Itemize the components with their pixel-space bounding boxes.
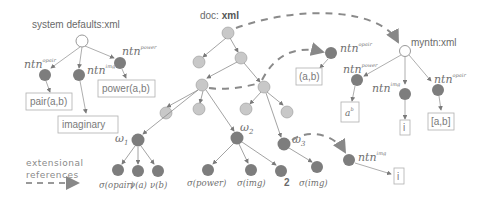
ntn-img-node bbox=[73, 69, 85, 81]
ntn-power-label: ntnpower bbox=[122, 44, 157, 58]
edge bbox=[203, 38, 226, 57]
doc-node bbox=[281, 106, 293, 118]
leaf-node bbox=[311, 161, 323, 173]
leaf-label-nu-b: ν(b) bbox=[150, 180, 167, 190]
edge bbox=[167, 90, 198, 107]
edge bbox=[80, 81, 86, 113]
ab-paren-box-text: (a,b) bbox=[299, 71, 320, 82]
system-defaults-root-node bbox=[76, 35, 88, 47]
edge bbox=[250, 92, 261, 104]
edge bbox=[122, 69, 126, 78]
pair-box-text: pair(a,b) bbox=[30, 96, 67, 107]
leaf-node bbox=[245, 164, 257, 176]
ntn-power-node bbox=[114, 57, 126, 69]
doc-node bbox=[240, 103, 252, 115]
leaf-node bbox=[132, 165, 144, 177]
legend-line2: references bbox=[26, 170, 79, 180]
edge bbox=[266, 93, 281, 137]
ntn-reference-diagram: system defaults:xml ntnopair ntnimg ntnp… bbox=[0, 0, 489, 200]
my-ntn-opair-label: ntnopair bbox=[434, 72, 466, 86]
edge bbox=[213, 143, 234, 164]
ext-ntn-img-node bbox=[343, 154, 355, 166]
edge bbox=[352, 86, 355, 101]
leaf-node bbox=[152, 165, 164, 177]
doc-ntn-opair-node bbox=[325, 47, 337, 59]
leaf-label-sigma-power: σ(power) bbox=[187, 178, 226, 188]
ntn-img-label: ntnimg bbox=[87, 63, 115, 77]
ext-ntn-img-label: ntnimg bbox=[358, 150, 386, 164]
omega3-node bbox=[278, 138, 291, 151]
omega1-label: ω1 bbox=[115, 132, 128, 147]
leaf-node bbox=[275, 165, 287, 177]
edge bbox=[206, 90, 234, 131]
leaf-label-two: 2 bbox=[284, 177, 290, 188]
leaf-label-sigma-img-2: σ(img) bbox=[299, 178, 328, 188]
edge bbox=[244, 63, 260, 82]
omega2-label: ω2 bbox=[240, 121, 254, 136]
edge bbox=[289, 148, 312, 162]
doc-node bbox=[258, 81, 270, 93]
doc-node bbox=[196, 79, 208, 91]
doc-node bbox=[193, 103, 205, 115]
edge bbox=[122, 146, 135, 164]
doc-node bbox=[193, 56, 205, 68]
leaf-label-sigma-opair: σ(opair) bbox=[99, 180, 134, 190]
my-ntn-power-label: ntnpower bbox=[343, 62, 378, 76]
my-ntn-img-label: ntnimg bbox=[372, 81, 400, 95]
leaf-node bbox=[202, 164, 214, 176]
edge bbox=[409, 55, 431, 81]
i-box-myntn-text: i bbox=[403, 122, 405, 133]
ntn-opair-label: ntnopair bbox=[24, 57, 56, 71]
edge bbox=[320, 59, 328, 68]
ab-bracket-box-text: [a,b] bbox=[431, 116, 451, 127]
i-box-ext-text: i bbox=[397, 171, 399, 182]
edge bbox=[85, 46, 114, 58]
myntn-root-node bbox=[400, 46, 411, 57]
dashed-ref-internal bbox=[209, 84, 256, 89]
system-defaults-title: system defaults:xml bbox=[32, 19, 120, 30]
leaf-label-sigma-img-1: σ(img) bbox=[237, 178, 266, 188]
edge bbox=[79, 47, 82, 68]
omega1-node bbox=[132, 134, 145, 147]
myntn-title: myntn:xml bbox=[411, 37, 457, 48]
leaf-node bbox=[112, 164, 124, 176]
edge bbox=[46, 81, 50, 92]
leaf-label-nu-a: ν(a) bbox=[130, 180, 147, 190]
my-ntn-img-node bbox=[399, 88, 411, 100]
power-box-text: power(a,b) bbox=[102, 83, 150, 94]
edge bbox=[141, 146, 154, 164]
dashed-ref-doc-to-myntn bbox=[236, 13, 398, 42]
edge bbox=[207, 62, 237, 78]
imaginary-box-text: imaginary bbox=[62, 119, 105, 130]
edge bbox=[355, 163, 391, 174]
legend-line1: extensional bbox=[26, 158, 83, 168]
edge bbox=[200, 91, 203, 103]
diagram-canvas: system defaults:xml ntnopair ntnimg ntnp… bbox=[0, 0, 489, 200]
doc-title: doc: xml bbox=[200, 10, 239, 21]
edge bbox=[439, 96, 441, 110]
doc-ntn-opair-label: ntnopair bbox=[340, 41, 372, 55]
edge bbox=[239, 144, 248, 163]
edge bbox=[230, 38, 238, 52]
doc-root-node bbox=[222, 27, 234, 39]
omega3-label: ω3 bbox=[292, 133, 306, 148]
doc-node bbox=[160, 107, 172, 119]
